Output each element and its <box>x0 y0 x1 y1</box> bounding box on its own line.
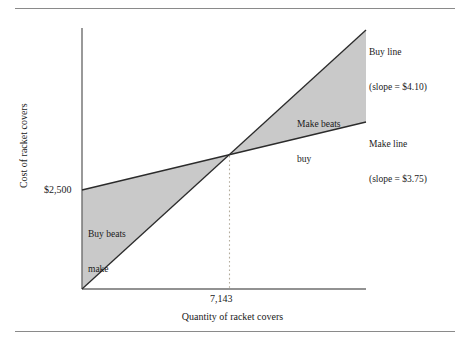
y-axis-title: Cost of racket covers <box>18 86 30 206</box>
buy-line-annotation-line1: Buy line <box>369 47 427 59</box>
region-label-buy-beats-make: Buy beats make <box>88 206 126 298</box>
buy-line-annotation: Buy line (slope = $4.10) <box>369 24 427 116</box>
region-label-buy-beats-make-line1: Buy beats <box>88 229 126 241</box>
y-axis-tick-label-2500: $2,500 <box>44 184 72 196</box>
make-line-annotation-line2: (slope = $3.75) <box>369 174 427 186</box>
make-line-annotation-line1: Make line <box>369 139 427 151</box>
figure-container: Buy line (slope = $4.10) Make line (slop… <box>0 0 465 343</box>
region-label-make-beats-buy-line2: buy <box>297 154 341 166</box>
x-axis-title: Quantity of racket covers <box>0 311 465 323</box>
buy-line-annotation-line2: (slope = $4.10) <box>369 82 427 94</box>
region-label-make-beats-buy-line1: Make beats <box>297 119 341 131</box>
region-label-make-beats-buy: Make beats buy <box>297 96 341 188</box>
region-label-buy-beats-make-line2: make <box>88 264 126 276</box>
x-axis-tick-label-7143: 7,143 <box>210 293 233 305</box>
make-line-annotation: Make line (slope = $3.75) <box>369 116 427 208</box>
